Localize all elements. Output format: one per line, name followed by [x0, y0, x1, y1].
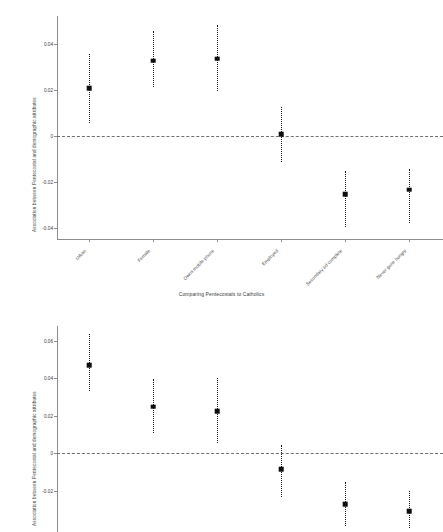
confidence-interval-bar — [409, 169, 410, 223]
y-axis-tick — [54, 228, 57, 229]
x-axis-tick — [153, 239, 154, 242]
x-axis-tick — [409, 239, 410, 242]
y-axis-tick — [54, 182, 57, 183]
x-axis-line — [57, 239, 443, 240]
data-point-marker — [279, 467, 284, 472]
x-axis-tick — [281, 239, 282, 242]
data-point-marker — [215, 56, 220, 61]
x-axis-tick — [89, 239, 90, 242]
data-point-marker — [87, 86, 92, 91]
data-point-marker — [87, 363, 92, 368]
figure-caption: Comparing Pentecostals to Catholics — [0, 291, 443, 297]
y-axis-tick-label: 0.02 — [31, 87, 53, 92]
y-axis-tick-label: 0 — [31, 451, 53, 456]
y-axis-tick-label: 0 — [31, 133, 53, 138]
y-axis-tick-label: 0.06 — [31, 338, 53, 343]
zero-reference-line — [57, 453, 443, 454]
y-axis-tick — [54, 416, 57, 417]
y-axis-tick-label: 0.04 — [31, 41, 53, 46]
y-axis-tick — [54, 90, 57, 91]
data-point-marker — [151, 404, 156, 409]
y-axis-tick-label: -0.02 — [31, 179, 53, 184]
y-axis-tick-label: 0.04 — [31, 376, 53, 381]
y-axis-tick — [54, 44, 57, 45]
data-point-marker — [407, 509, 412, 514]
data-point-marker — [343, 192, 348, 197]
chart-panel-bottom: Association between Pentecostal and demo… — [0, 300, 443, 526]
zero-reference-line — [57, 136, 443, 137]
plot-area-bottom: 0.060.040.020-0.02 — [0, 300, 443, 526]
y-axis-line — [57, 326, 58, 532]
y-axis-tick — [54, 491, 57, 492]
data-point-marker — [407, 187, 412, 192]
y-axis-tick-label: -0.02 — [31, 488, 53, 493]
confidence-interval-bar — [345, 171, 346, 227]
data-point-marker — [343, 502, 348, 507]
plot-area-top: 0.040.020-0.02-0.04UrbanFemaleOwns mobil… — [0, 0, 443, 284]
x-axis-tick — [345, 239, 346, 242]
y-axis-tick — [54, 341, 57, 342]
data-point-marker — [151, 59, 156, 64]
x-axis-tick — [217, 239, 218, 242]
y-axis-tick-label: -0.04 — [31, 225, 53, 230]
y-axis-tick-label: 0.02 — [31, 413, 53, 418]
chart-panel-top: Association between Pentecostal and demo… — [0, 0, 443, 284]
data-point-marker — [215, 409, 220, 414]
y-axis-line — [57, 16, 58, 239]
data-point-marker — [279, 132, 284, 137]
y-axis-tick — [54, 378, 57, 379]
